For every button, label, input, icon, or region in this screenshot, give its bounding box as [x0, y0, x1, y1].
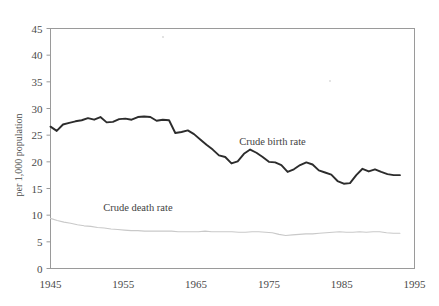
crude-birth-death-rate-line-chart: 051015202530354045 194519551965197519851…	[0, 0, 439, 306]
y-tick-label-25: 25	[32, 129, 44, 141]
speck-artifact-upper-left	[162, 36, 164, 38]
x-axis-tick-labels: 194519551965197519851995	[40, 278, 427, 290]
y-tick-label-45: 45	[32, 23, 44, 35]
y-tick-label-30: 30	[32, 103, 44, 115]
y-tick-label-20: 20	[32, 156, 44, 168]
y-tick-label-35: 35	[32, 76, 44, 88]
y-tick-label-10: 10	[32, 209, 44, 221]
x-tick-label-1975: 1975	[258, 278, 281, 290]
chart-container: 051015202530354045 194519551965197519851…	[0, 0, 439, 306]
x-tick-label-1995: 1995	[404, 278, 427, 290]
x-tick-label-1955: 1955	[112, 278, 135, 290]
y-tick-label-15: 15	[32, 183, 44, 195]
series-line-crude-death-rate	[51, 218, 400, 235]
plot-frame	[51, 29, 415, 269]
y-tick-label-40: 40	[32, 49, 44, 61]
series-annotation-crude-birth-rate: Crude birth rate	[239, 136, 306, 147]
x-tick-label-1985: 1985	[331, 278, 354, 290]
scan-artifact-specks	[162, 36, 331, 82]
x-tick-label-1945: 1945	[40, 278, 63, 290]
y-tick-label-5: 5	[37, 236, 43, 248]
speck-artifact-upper-right	[329, 80, 331, 82]
y-axis-tick-labels: 051015202530354045	[32, 23, 44, 275]
series-line-crude-birth-rate	[51, 117, 400, 184]
x-tick-label-1965: 1965	[185, 278, 208, 290]
series-annotation-crude-death-rate: Crude death rate	[103, 202, 173, 213]
y-tick-label-0: 0	[37, 263, 43, 275]
plot-frame-group	[51, 29, 415, 269]
y-axis-tick-marks	[47, 29, 51, 269]
y-axis-title: per 1,000 population	[13, 113, 24, 196]
